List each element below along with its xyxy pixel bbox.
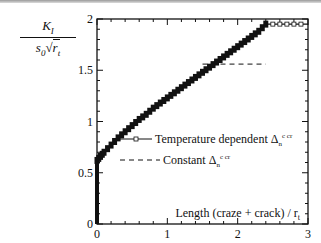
legend-sub: n [216, 161, 220, 169]
hollow-square-marker [292, 22, 296, 26]
y-tick-label: 0 [87, 217, 93, 231]
temperature-dependent-line [97, 24, 308, 224]
legend-sub: n [279, 140, 283, 148]
x-axis-label: Length (craze + crack) / rt [175, 206, 300, 222]
legend-sup: c cr [220, 153, 231, 161]
hollow-square-marker [278, 22, 282, 26]
x-tick-label: 1 [164, 227, 170, 241]
axes-frame: 012300.511.52Length (craze + crack) / rt [78, 12, 311, 241]
hollow-square-marker [299, 22, 303, 26]
legend-sup: c cr [282, 132, 293, 140]
legend-label-constant: Constant Δnc cr [163, 153, 231, 169]
y-tick-label: 0.5 [78, 166, 93, 180]
legend: Temperature dependent Δnc crConstant Δnc… [120, 132, 293, 169]
chart-plot: 012300.511.52Length (craze + crack) / rt… [0, 0, 321, 243]
x-axis-label-sub: t [298, 213, 301, 222]
y-tick-label: 1.5 [78, 63, 93, 77]
y-tick-label: 1 [87, 115, 93, 129]
y-tick-label: 2 [87, 12, 93, 26]
legend-label-temperature-dependent: Temperature dependent Δnc cr [155, 132, 293, 148]
legend-square-marker-icon [134, 137, 138, 141]
x-tick-label: 2 [235, 227, 241, 241]
plot-frame [97, 19, 308, 224]
data-series [95, 21, 309, 224]
filled-square-marker [263, 21, 268, 28]
hollow-square-marker [271, 22, 275, 26]
hollow-square-marker [285, 22, 289, 26]
x-tick-label: 0 [94, 227, 100, 241]
x-tick-label: 3 [305, 227, 311, 241]
